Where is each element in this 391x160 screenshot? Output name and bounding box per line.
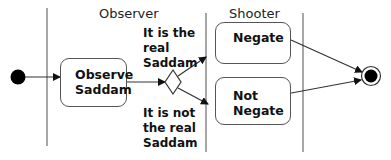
guard-real-saddam: It is the real Saddam bbox=[143, 26, 198, 71]
flow-negate-to-final bbox=[291, 40, 362, 72]
final-node bbox=[365, 70, 378, 83]
flow-not-negate-to-final bbox=[286, 80, 361, 94]
guard-not-real-saddam: It is not the real Saddam bbox=[143, 106, 198, 151]
action-negate-label: Negate bbox=[233, 30, 284, 45]
action-observe-saddam-label: Observe Saddam bbox=[75, 67, 133, 97]
action-not-negate-label: Not Negate bbox=[233, 88, 284, 118]
initial-node bbox=[11, 70, 26, 85]
flow-decision-to-not-negate bbox=[178, 88, 208, 104]
decision-node bbox=[165, 70, 181, 94]
lane-title-shooter: Shooter bbox=[229, 6, 280, 21]
lane-title-observer: Observer bbox=[99, 6, 159, 21]
